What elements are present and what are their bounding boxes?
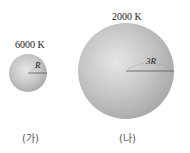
star-na-temperature: 2000 K [112,11,142,22]
star-ga [9,54,47,92]
star-ga-radius-label: R [35,60,41,70]
star-ga-caption: (가) [22,130,39,145]
star-na-caption: (나) [119,130,136,145]
star-na-radius-label: 3R [146,56,156,66]
star-na [78,23,174,119]
star-comparison-diagram: 6000 K R (가) 2000 K 3R (나) [0,0,190,153]
star-ga-temperature: 6000 K [15,39,45,50]
